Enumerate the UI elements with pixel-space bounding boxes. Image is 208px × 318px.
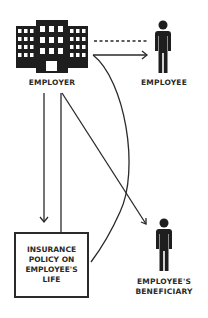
building-icon (16, 20, 88, 73)
employer-label: EMPLOYER (14, 78, 90, 88)
insurance-policy-label: INSURANCE POLICY ON EMPLOYEE'S LIFE (25, 245, 77, 285)
beneficiary-person-icon (156, 219, 172, 272)
curve-employer-to-policy (91, 55, 129, 262)
beneficiary-label: EMPLOYEE'S BENEFICIARY (126, 277, 202, 297)
employee-person-icon (155, 21, 171, 74)
arrow-employer-to-beneficiary (62, 93, 146, 224)
insurance-policy-box: INSURANCE POLICY ON EMPLOYEE'S LIFE (14, 232, 89, 298)
employee-label: EMPLOYEE (136, 78, 192, 88)
